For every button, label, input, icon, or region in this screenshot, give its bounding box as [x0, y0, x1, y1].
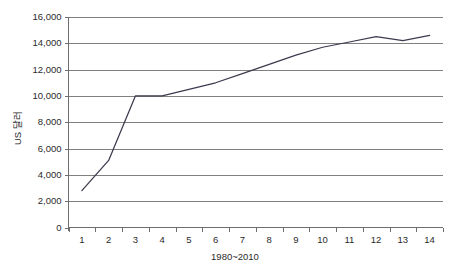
x-axis-tick-label: 1 [67, 235, 97, 245]
y-axis-tick-label: 6,000 [38, 144, 62, 154]
y-axis-tick-label: 8,000 [38, 117, 62, 127]
x-axis-tick-label: 6 [201, 235, 231, 245]
x-axis-tick-label: 4 [147, 235, 177, 245]
x-axis-tick-label: 12 [361, 235, 391, 245]
chart-plot-area [0, 0, 456, 270]
gridlines [69, 18, 444, 202]
y-axis-tick-label: 16,000 [32, 12, 61, 22]
y-axis-tick-label: 12,000 [32, 65, 61, 75]
x-axis-tick-label: 13 [388, 235, 418, 245]
x-axis-tickmarks [70, 228, 444, 232]
y-axis-tick-label: 10,000 [32, 91, 61, 101]
y-axis-tick-label: 2,000 [38, 196, 62, 206]
x-axis-tick-label: 11 [334, 235, 364, 245]
x-axis-tick-label: 5 [174, 235, 204, 245]
data-series-line [82, 35, 430, 190]
x-axis-tick-label: 9 [281, 235, 311, 245]
x-axis-tick-label: 7 [227, 235, 257, 245]
x-axis-tick-label: 10 [308, 235, 338, 245]
x-axis-tick-label: 14 [415, 235, 445, 245]
line-chart: 16,00014,00012,00010,0008,0006,0004,0002… [0, 0, 456, 270]
y-axis-tick-label: 14,000 [32, 38, 61, 48]
x-axis-title: 1980~2010 [180, 252, 290, 262]
x-axis-tick-label: 3 [120, 235, 150, 245]
y-axis-tick-label: 0 [56, 223, 61, 233]
y-axis-tick-label: 4,000 [38, 170, 62, 180]
y-axis-tickmarks [65, 18, 69, 229]
x-axis-tick-label: 8 [254, 235, 284, 245]
y-axis-title: US 달러 [13, 111, 23, 145]
x-axis-tick-label: 2 [94, 235, 124, 245]
